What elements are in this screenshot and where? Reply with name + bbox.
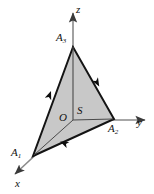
z-axis-label: z — [76, 4, 80, 15]
figure-container: z y x A3 A2 A1 O S — [0, 0, 154, 194]
vertex-label-a2: A2 — [108, 123, 118, 134]
vertex-a3-letter: A — [56, 31, 63, 43]
y-axis-label: y — [137, 117, 142, 128]
origin-label: O — [59, 112, 67, 123]
vertex-label-a1: A1 — [11, 147, 21, 158]
surface-label: S — [77, 105, 83, 116]
vertex-a3-index: 3 — [63, 37, 67, 45]
x-axis-label: x — [15, 178, 20, 189]
vertex-a2-index: 2 — [115, 128, 119, 136]
vertex-a1-index: 1 — [18, 152, 22, 160]
figure-canvas — [0, 0, 154, 194]
vertex-a1-letter: A — [11, 146, 18, 158]
arrow-a1-a3-icon — [45, 90, 54, 100]
vertex-a2-letter: A — [108, 122, 115, 134]
vertex-label-a3: A3 — [56, 32, 66, 43]
